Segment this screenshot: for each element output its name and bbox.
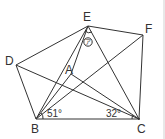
segment-BD [16, 65, 36, 119]
angle-arc-C [132, 115, 133, 119]
point-label-E: E [83, 10, 91, 24]
point-label-A: A [65, 63, 73, 77]
point-label-B: B [31, 122, 39, 136]
inner-lines [16, 26, 143, 119]
angle-label-B: 51° [47, 108, 62, 119]
segment-EF [88, 26, 143, 35]
geometry-diagram: ア E F D A B C 51° 32° [0, 0, 165, 139]
segment-AC [71, 74, 139, 119]
point-label-D: D [5, 54, 14, 68]
angle-label-C: 32° [106, 108, 121, 119]
point-dot-C [138, 118, 140, 120]
point-label-F: F [145, 22, 152, 36]
angle-mark-label: ア [85, 38, 91, 45]
outer-pentagon [16, 26, 143, 119]
edge-border [163, 0, 165, 139]
point-label-C: C [137, 122, 146, 136]
segment-FC [139, 35, 143, 119]
segment-EA [71, 26, 88, 74]
segment-BF [36, 35, 143, 119]
